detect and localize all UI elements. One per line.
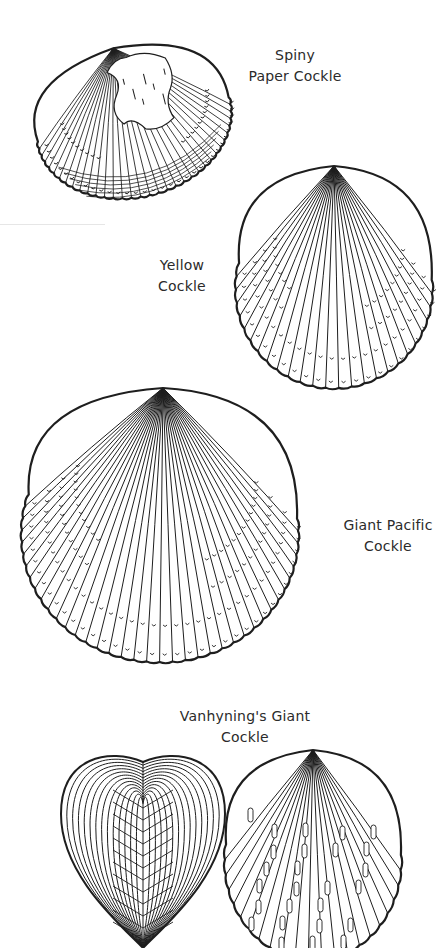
label-line-2: Cockle (150, 276, 214, 297)
spiny-paper-cockle-illustration (22, 28, 242, 208)
giant-pacific-cockle-label: Giant Pacific Cockle (333, 515, 443, 557)
vanhynings-giant-cockle-side-illustration (218, 748, 408, 948)
yellow-cockle-illustration (228, 160, 440, 395)
label-line-2: Cockle (333, 536, 443, 557)
divider (0, 224, 105, 225)
vanhynings-giant-cockle-front-illustration (58, 748, 228, 948)
vanhynings-giant-cockle-label: Vanhyning's Giant Cockle (170, 706, 320, 748)
yellow-cockle-label: Yellow Cockle (150, 255, 214, 297)
label-line-1: Vanhyning's Giant (170, 706, 320, 727)
label-line-1: Yellow (150, 255, 214, 276)
label-line-1: Spiny (240, 45, 350, 66)
giant-pacific-cockle-illustration (15, 384, 300, 669)
label-line-2: Paper Cockle (240, 66, 350, 87)
label-line-1: Giant Pacific (333, 515, 443, 536)
spiny-paper-cockle-label: Spiny Paper Cockle (240, 45, 350, 87)
label-line-2: Cockle (170, 727, 320, 748)
